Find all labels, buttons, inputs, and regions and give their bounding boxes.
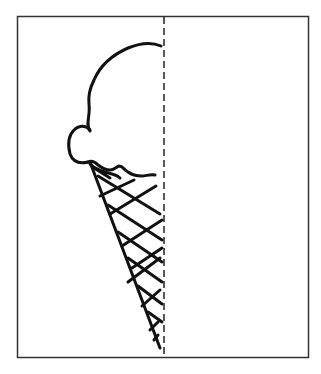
frame-border [18, 17, 309, 358]
ice-cream-scoop [69, 44, 161, 178]
waffle-cone [90, 162, 162, 348]
diagram-canvas: Half ice cream cone with line of symmetr… [0, 0, 321, 374]
